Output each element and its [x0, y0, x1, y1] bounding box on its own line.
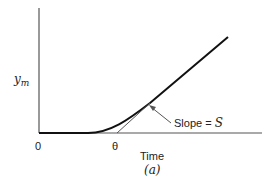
process-response-diagram: ym 0 θ Slope = S Time (a) [0, 0, 271, 184]
origin-label: 0 [35, 140, 41, 152]
y-axis-label: ym [13, 72, 29, 88]
slope-label: Slope = S [174, 116, 223, 130]
tangent-line [117, 103, 150, 133]
x-axis-label: Time [140, 150, 164, 162]
theta-label: θ [112, 140, 118, 152]
figure-caption: (a) [144, 163, 161, 177]
